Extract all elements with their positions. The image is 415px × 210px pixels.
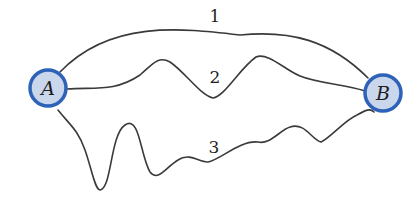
node-b-label: B [375,82,390,104]
path-2-label: 2 [210,67,221,87]
path-diagram: A B 1 2 3 [0,0,415,210]
path-1-label: 1 [210,6,221,26]
node-a-label: A [39,77,55,99]
node-b: B [365,75,401,111]
path-3-label: 3 [209,137,220,157]
node-a: A [30,70,66,106]
